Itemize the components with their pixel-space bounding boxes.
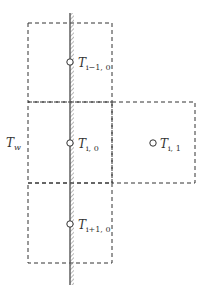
label-i-plus-1-0: Ti+1, 0 [78,218,111,234]
node-circle-i-plus-1-0 [67,221,73,227]
label-i-1: Ti, 1 [160,137,181,153]
label-i-0: Ti, 0 [78,137,99,153]
label-wall-temperature: Tw [6,136,21,152]
cells [28,23,195,263]
node-circle-i-0 [67,140,73,146]
wall [70,13,74,285]
node-circle-i-minus-1-0 [67,59,73,65]
node-circle-i-1 [150,140,156,146]
grid-diagram: Ti−1, 0 Ti, 0 Ti, 1 Ti+1, 0 Tw [0,0,205,296]
label-i-minus-1-0: Ti−1, 0 [78,56,111,72]
